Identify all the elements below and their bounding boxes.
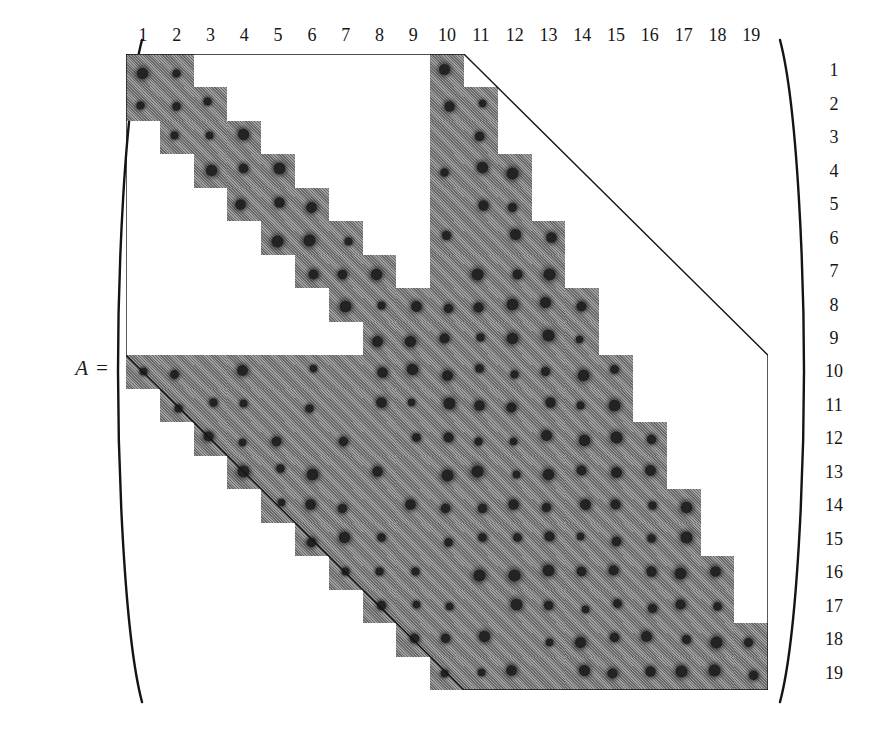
matrix-cell-empty (667, 422, 701, 455)
matrix-cell-empty (227, 87, 261, 120)
nonzero-entry-marker (508, 203, 517, 212)
matrix-cell-empty (701, 355, 735, 388)
matrix-cell-filled (599, 657, 633, 690)
matrix-cell-empty (532, 154, 566, 187)
matrix-cell-filled (667, 523, 701, 556)
matrix-cell-filled (701, 623, 735, 656)
matrix-cell-filled (126, 355, 160, 388)
matrix-cell-empty (701, 456, 735, 489)
matrix-cell-filled (430, 221, 464, 254)
matrix-cell-filled (363, 322, 397, 355)
nonzero-entry-marker (610, 365, 619, 374)
matrix-cell-empty (532, 188, 566, 221)
column-label-12: 12 (498, 22, 532, 48)
matrix-cell-filled (295, 188, 329, 221)
matrix-cell-empty (194, 255, 228, 288)
nonzero-entry-marker (204, 431, 214, 441)
matrix-cell-filled (532, 355, 566, 388)
nonzero-entry-marker (577, 301, 587, 311)
matrix-cell-filled (633, 657, 667, 690)
nonzero-entry-marker (439, 64, 450, 75)
matrix-cell-empty (532, 87, 566, 120)
matrix-cell-filled (261, 389, 295, 422)
nonzero-entry-marker (411, 301, 422, 312)
matrix-cell-filled (396, 590, 430, 623)
matrix-cell-filled (734, 623, 768, 656)
matrix-cell-empty (126, 389, 160, 422)
matrix-cell-empty (532, 121, 566, 154)
matrix-cell-empty (295, 657, 329, 690)
nonzero-entry-marker (579, 435, 590, 446)
matrix-cell-empty (295, 154, 329, 187)
matrix-cell-filled (363, 422, 397, 455)
column-label-9: 9 (396, 22, 430, 48)
matrix-cell-empty (633, 255, 667, 288)
matrix-cell-empty (329, 590, 363, 623)
row-label-5: 5 (812, 188, 856, 221)
matrix-cell-filled (464, 188, 498, 221)
matrix-cell-empty (126, 154, 160, 187)
nonzero-entry-marker (510, 599, 522, 611)
matrix-cell-filled (498, 422, 532, 455)
matrix-cell-filled (701, 657, 735, 690)
matrix-cell-empty (667, 288, 701, 321)
nonzero-entry-marker (342, 567, 350, 575)
matrix-cell-empty (599, 288, 633, 321)
matrix-cell-filled (396, 389, 430, 422)
nonzero-entry-marker (508, 499, 518, 509)
matrix-cell-filled (565, 590, 599, 623)
nonzero-entry-marker (576, 533, 583, 540)
matrix-cell-filled (295, 389, 329, 422)
nonzero-entry-marker (611, 431, 623, 443)
nonzero-entry-marker (708, 664, 720, 676)
matrix-cell-filled (261, 154, 295, 187)
matrix-cell-empty (701, 221, 735, 254)
matrix-cell-filled (430, 657, 464, 690)
right-parenthesis (774, 38, 814, 704)
nonzero-entry-marker (442, 370, 453, 381)
matrix-cell-empty (194, 221, 228, 254)
matrix-cell-empty (126, 255, 160, 288)
nonzero-entry-marker (511, 370, 519, 378)
nonzero-entry-marker (646, 666, 656, 676)
column-label-11: 11 (464, 22, 498, 48)
row-label-17: 17 (812, 590, 856, 623)
nonzero-entry-marker (544, 601, 553, 610)
matrix-cell-empty (701, 255, 735, 288)
matrix-cell-empty (329, 322, 363, 355)
matrix-row (126, 322, 768, 355)
matrix-cell-filled (363, 288, 397, 321)
matrix-cell-filled (701, 556, 735, 589)
matrix-cell-filled (329, 288, 363, 321)
matrix-cell-filled (396, 422, 430, 455)
matrix-cell-filled (464, 121, 498, 154)
matrix-cell-filled (599, 422, 633, 455)
matrix-cell-empty (160, 590, 194, 623)
matrix-cell-filled (430, 422, 464, 455)
matrix-cell-filled (532, 221, 566, 254)
matrix-cell-empty (667, 456, 701, 489)
matrix-cell-empty (194, 556, 228, 589)
row-label-3: 3 (812, 121, 856, 154)
matrix-cell-filled (329, 523, 363, 556)
nonzero-entry-marker (340, 301, 352, 313)
nonzero-entry-marker (475, 131, 484, 140)
matrix-cell-empty (261, 657, 295, 690)
matrix-row (126, 556, 768, 589)
matrix-row (126, 188, 768, 221)
matrix-cell-empty (160, 288, 194, 321)
matrix-cell-filled (532, 556, 566, 589)
matrix-cell-empty (126, 657, 160, 690)
row-label-18: 18 (812, 623, 856, 656)
matrix-cell-filled (430, 121, 464, 154)
nonzero-entry-marker (276, 465, 284, 473)
matrix-cell-filled (295, 355, 329, 388)
nonzero-entry-marker (582, 606, 589, 613)
matrix-cell-filled (396, 288, 430, 321)
nonzero-entry-marker (137, 67, 148, 78)
matrix-row (126, 87, 768, 120)
matrix-row (126, 355, 768, 388)
matrix-cell-empty (194, 188, 228, 221)
nonzero-entry-marker (237, 465, 249, 477)
matrix-cell-filled (565, 389, 599, 422)
